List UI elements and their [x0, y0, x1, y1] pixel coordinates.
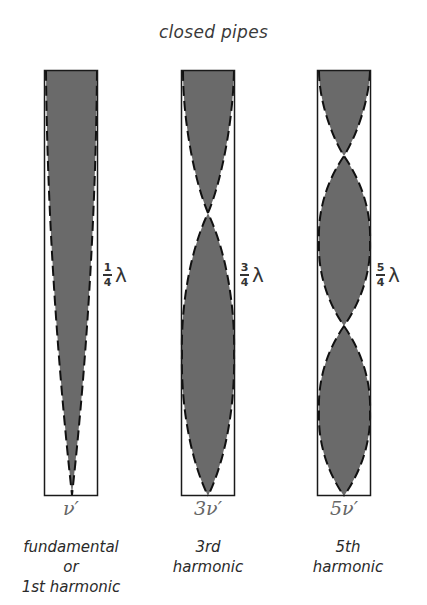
length-label-fundamental: 1 4 λ: [103, 262, 127, 288]
pipe-fifth-harmonic: [318, 71, 371, 497]
fraction-denominator: 4: [241, 277, 249, 288]
caption-line: harmonic: [283, 557, 413, 577]
lambda-symbol: λ: [252, 263, 264, 287]
standing-wave-fill: [319, 326, 370, 496]
standing-wave-fill: [319, 156, 370, 326]
frequency-label-fundamental: ν′: [31, 497, 111, 519]
caption-third: 3rd harmonic: [143, 537, 273, 577]
fraction: 1 4: [103, 262, 112, 288]
fraction-numerator: 3: [241, 262, 249, 273]
caption-line: fundamental: [6, 537, 136, 557]
fraction-denominator: 4: [377, 277, 385, 288]
frequency-label-fifth: 5ν′: [304, 497, 384, 519]
caption-line: 1st harmonic: [6, 577, 136, 597]
caption-line: 5th: [283, 537, 413, 557]
length-label-fifth: 5 4 λ: [376, 262, 400, 288]
fraction: 3 4: [240, 262, 249, 288]
fraction-numerator: 5: [377, 262, 385, 273]
caption-line: harmonic: [143, 557, 273, 577]
standing-wave-fill: [182, 213, 234, 496]
length-label-third: 3 4 λ: [240, 262, 264, 288]
standing-wave-fill: [183, 71, 234, 213]
caption-fifth: 5th harmonic: [283, 537, 413, 577]
pipe-fundamental: [45, 71, 98, 496]
caption-line: 3rd: [143, 537, 273, 557]
caption-line: or: [6, 557, 136, 577]
fraction-numerator: 1: [104, 262, 112, 273]
lambda-symbol: λ: [388, 263, 400, 287]
frequency-label-third: 3ν′: [168, 497, 248, 519]
fraction-denominator: 4: [104, 277, 112, 288]
fraction: 5 4: [376, 262, 385, 288]
standing-wave-fill: [319, 71, 370, 156]
pipe-third-harmonic: [182, 71, 235, 497]
caption-fundamental: fundamental or 1st harmonic: [6, 537, 136, 597]
lambda-symbol: λ: [115, 263, 127, 287]
